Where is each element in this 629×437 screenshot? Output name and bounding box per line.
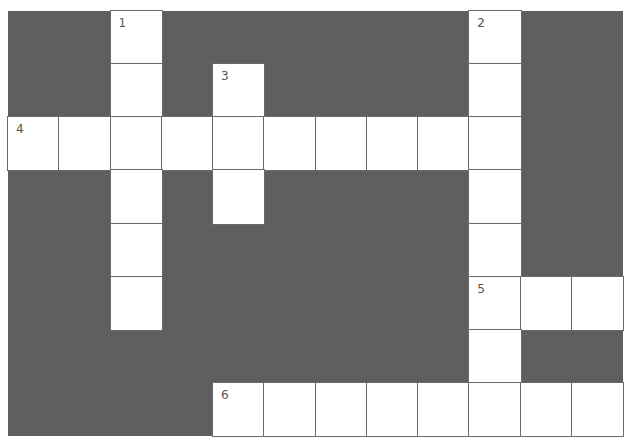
clue-number: 1 bbox=[119, 16, 127, 30]
blocked-cell bbox=[418, 330, 469, 383]
blocked-cell bbox=[59, 64, 110, 117]
blocked-cell bbox=[572, 224, 623, 277]
crossword-cell[interactable] bbox=[469, 330, 520, 383]
blocked-cell bbox=[162, 383, 213, 436]
blocked-cell bbox=[521, 330, 572, 383]
blocked-cell bbox=[8, 64, 59, 117]
crossword-cell[interactable] bbox=[521, 383, 572, 436]
blocked-cell bbox=[111, 383, 162, 436]
blocked-cell bbox=[162, 330, 213, 383]
blocked-cell bbox=[264, 64, 315, 117]
blocked-cell bbox=[8, 11, 59, 64]
blocked-cell bbox=[367, 330, 418, 383]
crossword-cell[interactable] bbox=[316, 117, 367, 170]
crossword-cell[interactable] bbox=[418, 117, 469, 170]
crossword-cell[interactable]: 2 bbox=[469, 11, 520, 64]
crossword-cell[interactable] bbox=[59, 117, 110, 170]
blocked-cell bbox=[59, 330, 110, 383]
crossword-cell[interactable]: 4 bbox=[8, 117, 59, 170]
blocked-cell bbox=[264, 11, 315, 64]
blocked-cell bbox=[213, 224, 264, 277]
blocked-cell bbox=[8, 330, 59, 383]
crossword-cell[interactable] bbox=[469, 170, 520, 223]
crossword-cell[interactable] bbox=[111, 64, 162, 117]
blocked-cell bbox=[59, 170, 110, 223]
blocked-cell bbox=[59, 224, 110, 277]
crossword-cell[interactable] bbox=[418, 383, 469, 436]
crossword-cell[interactable] bbox=[264, 117, 315, 170]
blocked-cell bbox=[316, 277, 367, 330]
blocked-cell bbox=[213, 330, 264, 383]
blocked-cell bbox=[8, 383, 59, 436]
blocked-cell bbox=[59, 11, 110, 64]
blocked-cell bbox=[59, 277, 110, 330]
blocked-cell bbox=[162, 277, 213, 330]
blocked-cell bbox=[418, 170, 469, 223]
blocked-cell bbox=[521, 224, 572, 277]
crossword-cell[interactable] bbox=[111, 224, 162, 277]
blocked-cell bbox=[316, 64, 367, 117]
crossword-cell[interactable] bbox=[469, 117, 520, 170]
blocked-cell bbox=[418, 64, 469, 117]
clue-number: 4 bbox=[16, 122, 24, 136]
blocked-cell bbox=[367, 170, 418, 223]
crossword-cell[interactable] bbox=[572, 383, 623, 436]
blocked-cell bbox=[521, 64, 572, 117]
crossword-cell[interactable] bbox=[367, 383, 418, 436]
blocked-cell bbox=[264, 277, 315, 330]
blocked-cell bbox=[264, 170, 315, 223]
blocked-cell bbox=[418, 11, 469, 64]
crossword-cell[interactable]: 1 bbox=[111, 11, 162, 64]
blocked-cell bbox=[213, 11, 264, 64]
blocked-cell bbox=[521, 117, 572, 170]
blocked-cell bbox=[521, 170, 572, 223]
blocked-cell bbox=[162, 64, 213, 117]
crossword-cell[interactable] bbox=[469, 64, 520, 117]
clue-number: 6 bbox=[221, 388, 229, 402]
crossword-cell[interactable]: 3 bbox=[213, 64, 264, 117]
blocked-cell bbox=[264, 224, 315, 277]
blocked-cell bbox=[162, 11, 213, 64]
crossword-grid: 123456 bbox=[8, 11, 623, 436]
crossword-cell[interactable] bbox=[111, 170, 162, 223]
blocked-cell bbox=[213, 277, 264, 330]
blocked-cell bbox=[162, 224, 213, 277]
blocked-cell bbox=[572, 170, 623, 223]
blocked-cell bbox=[367, 64, 418, 117]
blocked-cell bbox=[316, 170, 367, 223]
crossword-cell[interactable]: 5 bbox=[469, 277, 520, 330]
blocked-cell bbox=[111, 330, 162, 383]
crossword-cell[interactable] bbox=[213, 170, 264, 223]
crossword-cell[interactable] bbox=[111, 117, 162, 170]
blocked-cell bbox=[316, 11, 367, 64]
blocked-cell bbox=[572, 117, 623, 170]
blocked-cell bbox=[418, 277, 469, 330]
blocked-cell bbox=[521, 11, 572, 64]
blocked-cell bbox=[59, 383, 110, 436]
crossword-cell[interactable] bbox=[111, 277, 162, 330]
crossword-cell[interactable] bbox=[264, 383, 315, 436]
blocked-cell bbox=[367, 224, 418, 277]
blocked-cell bbox=[367, 277, 418, 330]
blocked-cell bbox=[572, 330, 623, 383]
crossword-cell[interactable] bbox=[367, 117, 418, 170]
crossword-cell[interactable]: 6 bbox=[213, 383, 264, 436]
clue-number: 3 bbox=[221, 69, 229, 83]
blocked-cell bbox=[264, 330, 315, 383]
clue-number: 5 bbox=[477, 282, 485, 296]
crossword-cell[interactable] bbox=[316, 383, 367, 436]
blocked-cell bbox=[418, 224, 469, 277]
blocked-cell bbox=[8, 277, 59, 330]
crossword-cell[interactable] bbox=[469, 383, 520, 436]
crossword-cell[interactable] bbox=[521, 277, 572, 330]
blocked-cell bbox=[8, 224, 59, 277]
crossword-cell[interactable] bbox=[162, 117, 213, 170]
crossword-cell[interactable] bbox=[469, 224, 520, 277]
clue-number: 2 bbox=[477, 16, 485, 30]
blocked-cell bbox=[316, 224, 367, 277]
blocked-cell bbox=[572, 64, 623, 117]
crossword-cell[interactable] bbox=[213, 117, 264, 170]
crossword-cell[interactable] bbox=[572, 277, 623, 330]
blocked-cell bbox=[162, 170, 213, 223]
blocked-cell bbox=[8, 170, 59, 223]
